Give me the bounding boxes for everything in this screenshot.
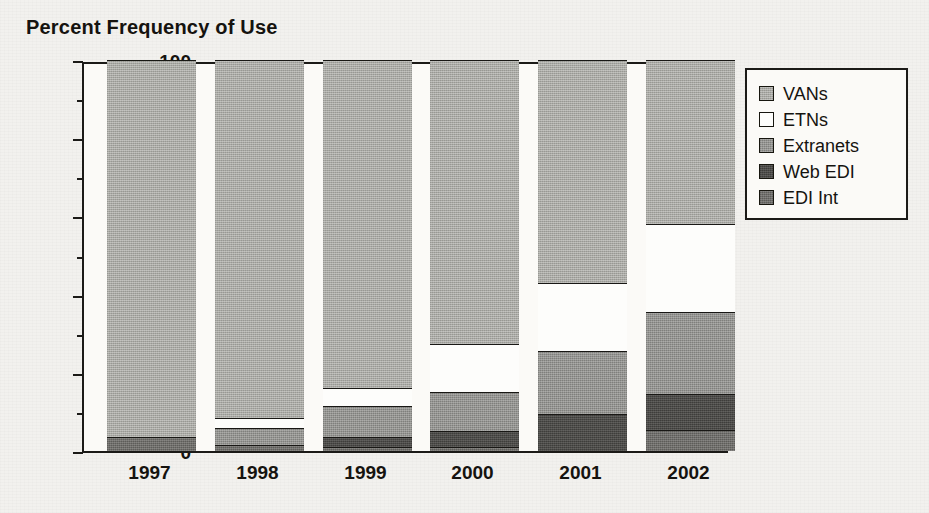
x-axis-label-2000: 2000 (451, 462, 493, 484)
legend-item-edi-int[interactable]: EDI Int (759, 185, 906, 210)
bar-segment-2001-extranets[interactable] (538, 351, 627, 414)
bar-segment-2001-vans[interactable] (538, 60, 627, 283)
legend-item-etns[interactable]: ETNs (759, 107, 906, 132)
bar-segment-1999-web-edi[interactable] (323, 437, 412, 447)
legend-swatch-web-edi-icon (759, 164, 774, 179)
legend-label-etns: ETNs (783, 111, 828, 129)
bar-segment-2002-etns[interactable] (646, 224, 735, 312)
bar-segment-2000-web-edi[interactable] (430, 431, 519, 447)
bar-segment-2002-edi-int[interactable] (646, 430, 735, 452)
bar-segment-2000-vans[interactable] (430, 60, 519, 343)
x-axis-label-2001: 2001 (559, 462, 601, 484)
bar-segment-2001-etns[interactable] (538, 283, 627, 351)
x-axis-label-1997: 1997 (128, 462, 170, 484)
legend-item-web-edi[interactable]: Web EDI (759, 159, 906, 184)
legend-swatch-vans-icon (759, 86, 774, 101)
legend-label-web-edi: Web EDI (783, 163, 855, 181)
legend-label-extranets: Extranets (783, 137, 859, 155)
legend-swatch-etns-icon (759, 112, 774, 127)
bar-segment-1999-vans[interactable] (323, 60, 412, 388)
x-axis-label-1998: 1998 (236, 462, 278, 484)
legend-item-extranets[interactable]: Extranets (759, 133, 906, 158)
bar-segment-1997-vans[interactable] (107, 60, 196, 437)
legend-swatch-extranets-icon (759, 138, 774, 153)
bar-segment-1999-extranets[interactable] (323, 406, 412, 437)
bar-2000[interactable] (430, 60, 519, 451)
bar-segment-1999-edi-int[interactable] (323, 447, 412, 451)
x-axis-label-2002: 2002 (667, 462, 709, 484)
legend-item-vans[interactable]: VANs (759, 81, 906, 106)
bar-segment-2002-extranets[interactable] (646, 312, 735, 394)
bars-container (84, 64, 726, 451)
bar-segment-1998-vans[interactable] (215, 60, 304, 418)
bar-segment-2000-edi-int[interactable] (430, 447, 519, 451)
bar-segment-2000-extranets[interactable] (430, 392, 519, 431)
bar-segment-1997-edi-int[interactable] (107, 437, 196, 451)
bar-segment-1999-etns[interactable] (323, 388, 412, 406)
bar-segment-1998-edi-int[interactable] (215, 445, 304, 451)
bar-segment-1998-extranets[interactable] (215, 428, 304, 446)
bar-1999[interactable] (323, 60, 412, 451)
bar-segment-2000-etns[interactable] (430, 344, 519, 393)
legend-label-vans: VANs (783, 85, 828, 103)
bar-2002[interactable] (646, 60, 735, 451)
chart-legend: VANsETNsExtranetsWeb EDIEDI Int (745, 68, 908, 220)
plot-area (82, 62, 728, 453)
chart-title: Percent Frequency of Use (26, 16, 278, 39)
legend-swatch-edi-int-icon (759, 190, 774, 205)
bar-segment-2002-web-edi[interactable] (646, 394, 735, 429)
legend-label-edi-int: EDI Int (783, 189, 838, 207)
bar-1997[interactable] (107, 60, 196, 451)
bar-1998[interactable] (215, 60, 304, 451)
bar-segment-2002-vans[interactable] (646, 60, 735, 224)
x-axis-label-1999: 1999 (344, 462, 386, 484)
bar-segment-2001-web-edi[interactable] (538, 414, 627, 451)
bar-segment-1998-etns[interactable] (215, 418, 304, 428)
bar-2001[interactable] (538, 60, 627, 451)
